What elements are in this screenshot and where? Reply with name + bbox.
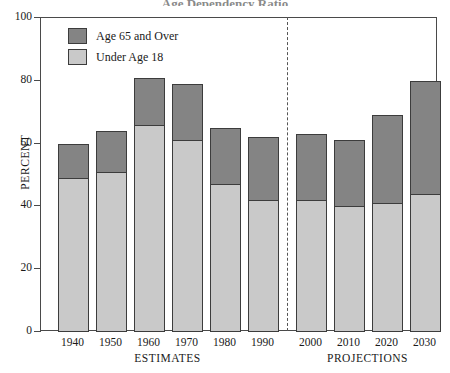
- x-axis-tick-label-1970: 1970: [165, 336, 208, 348]
- y-axis-tick-label: 0: [0, 325, 32, 337]
- bar-segment-age-65-and-over: [96, 131, 127, 173]
- bar-2000: [296, 134, 327, 332]
- y-axis-title: PERCENT: [19, 117, 31, 207]
- estimates-projections-divider: [287, 17, 288, 331]
- chart-title: Age Dependency Ratio: [0, 0, 450, 6]
- x-axis-tick-label-2010: 2010: [327, 336, 370, 348]
- x-axis-group-label-estimates: ESTIMATES: [57, 352, 278, 364]
- bar-1990: [248, 137, 279, 332]
- bar-segment-age-65-and-over: [172, 84, 203, 142]
- bar-1960: [134, 78, 165, 332]
- x-axis-tick-label-1950: 1950: [89, 336, 132, 348]
- legend-swatch-icon: [68, 49, 87, 65]
- x-axis-tick-label-1940: 1940: [51, 336, 94, 348]
- bar-segment-age-65-and-over: [248, 137, 279, 201]
- x-axis-tick-label-1990: 1990: [241, 336, 284, 348]
- bar-segment-under-age-18: [58, 178, 89, 332]
- legend-label: Age 65 and Over: [96, 30, 178, 42]
- y-axis-tick-label: 60: [0, 137, 32, 149]
- bar-1980: [210, 128, 241, 332]
- bar-segment-age-65-and-over: [296, 134, 327, 201]
- bar-segment-under-age-18: [210, 184, 241, 332]
- x-axis-tick-label-2030: 2030: [403, 336, 446, 348]
- x-axis-group-label-projections: PROJECTIONS: [295, 352, 440, 364]
- bar-2030: [410, 81, 441, 332]
- y-axis-tick-label: 20: [0, 262, 32, 274]
- bar-segment-age-65-and-over: [210, 128, 241, 186]
- legend-item: Age 65 and Over: [68, 28, 178, 44]
- x-axis-tick-label-1980: 1980: [203, 336, 246, 348]
- bar-segment-age-65-and-over: [410, 81, 441, 195]
- legend-item: Under Age 18: [68, 49, 178, 65]
- bar-segment-age-65-and-over: [134, 78, 165, 127]
- x-axis-tick-label-1960: 1960: [127, 336, 170, 348]
- legend-label: Under Age 18: [96, 51, 163, 63]
- bar-segment-under-age-18: [134, 125, 165, 332]
- x-axis-tick-label-2020: 2020: [365, 336, 408, 348]
- bar-segment-under-age-18: [96, 172, 127, 332]
- bar-2020: [372, 115, 403, 332]
- y-axis-tick-label: 100: [0, 11, 32, 23]
- chart-legend: Age 65 and Over Under Age 18: [68, 28, 178, 70]
- bar-1940: [58, 144, 89, 332]
- bar-2010: [334, 140, 365, 332]
- x-axis-tick-label-2000: 2000: [289, 336, 332, 348]
- bar-segment-age-65-and-over: [58, 144, 89, 180]
- bar-segment-under-age-18: [172, 140, 203, 332]
- bar-1970: [172, 84, 203, 332]
- bar-segment-under-age-18: [334, 206, 365, 332]
- y-axis-tick-label: 40: [0, 199, 32, 211]
- chart-container: Age Dependency Ratio PERCENT 02040608010…: [0, 0, 450, 373]
- bar-segment-age-65-and-over: [334, 140, 365, 207]
- bar-segment-under-age-18: [410, 194, 441, 332]
- bar-segment-under-age-18: [296, 200, 327, 332]
- y-axis-tick: [34, 331, 41, 332]
- bar-segment-under-age-18: [372, 203, 403, 332]
- bar-segment-age-65-and-over: [372, 115, 403, 204]
- legend-swatch-icon: [68, 28, 87, 44]
- bar-segment-under-age-18: [248, 200, 279, 332]
- bar-1950: [96, 131, 127, 332]
- y-axis-tick-label: 80: [0, 74, 32, 86]
